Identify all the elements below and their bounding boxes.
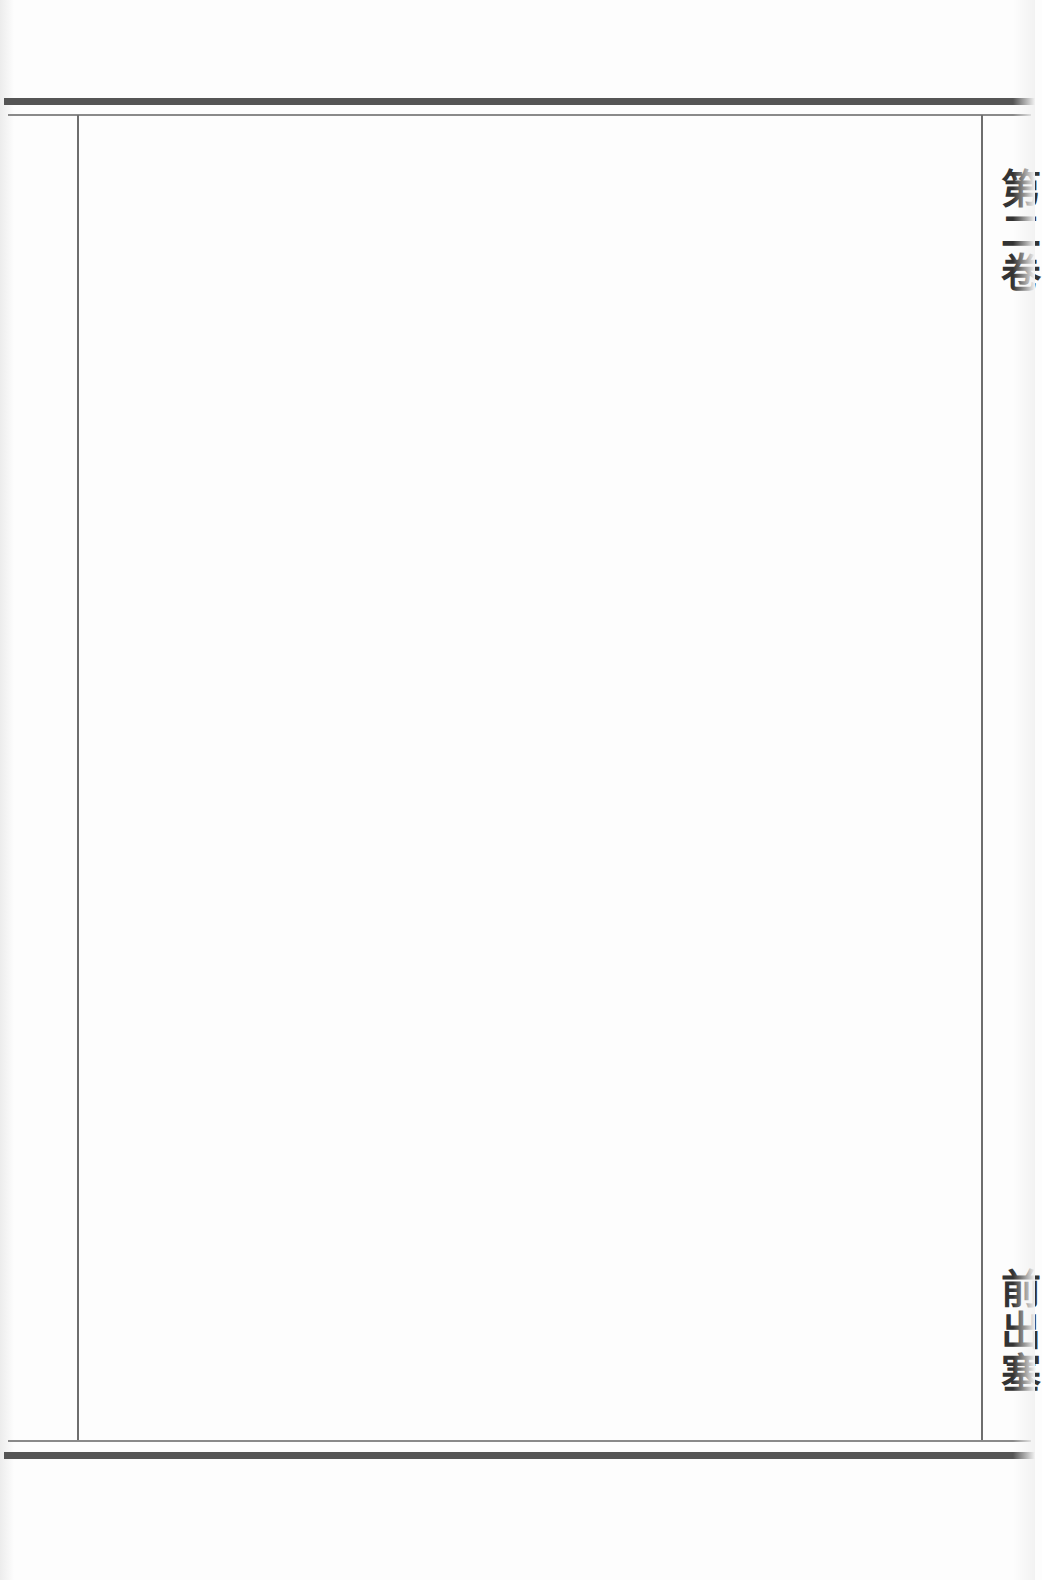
bottom-thin-rule: [8, 1440, 1031, 1442]
top-thin-rule: [8, 114, 1031, 116]
right-frame-line: [981, 115, 983, 1441]
top-thick-rule: [4, 98, 1035, 105]
left-frame-line: [77, 115, 79, 1441]
section-title-margin-label: 前出塞: [996, 1268, 1040, 1394]
volume-margin-label: 第二卷: [996, 168, 1040, 294]
page-gutter-shadow: [0, 0, 14, 1580]
bottom-thick-rule: [4, 1452, 1035, 1459]
